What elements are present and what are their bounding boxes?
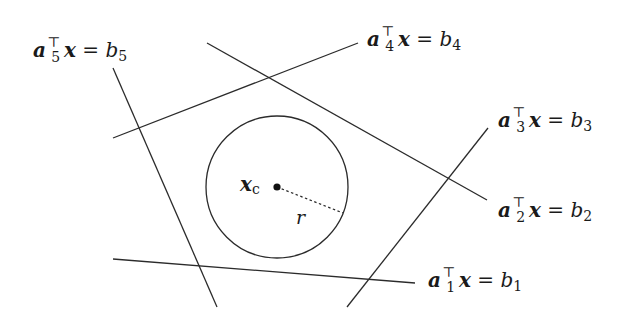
center-sub: c <box>252 181 260 197</box>
constraint-label-5: a⊤5x = b5 <box>33 34 127 65</box>
center-var: x <box>239 172 253 196</box>
halfspace-line-4 <box>113 43 358 138</box>
constraint-label-1: a⊤1x = b1 <box>428 264 522 295</box>
constraint-label-2: a⊤2x = b2 <box>498 194 592 225</box>
center-point <box>273 183 280 190</box>
radius-line <box>277 187 343 213</box>
constraint-labels: a⊤1x = b1a⊤2x = b2a⊤3x = b3a⊤4x = b4a⊤5x… <box>33 23 592 295</box>
constraint-label-4: a⊤4x = b4 <box>367 23 461 54</box>
radius-label: r <box>296 206 307 228</box>
halfspace-line-1 <box>113 259 415 283</box>
polyhedron-diagram: xc r a⊤1x = b1a⊤2x = b2a⊤3x = b3a⊤4x = b… <box>0 0 630 327</box>
constraint-label-3: a⊤3x = b3 <box>498 104 592 135</box>
center-label: xc <box>239 172 260 197</box>
